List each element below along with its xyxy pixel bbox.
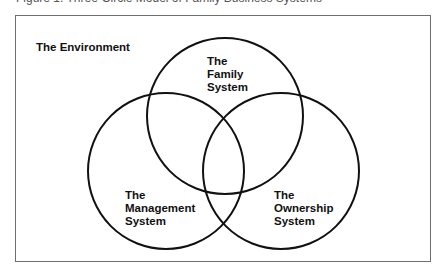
ownership-system-label: The Ownership System — [274, 189, 333, 228]
family-system-label: The Family System — [207, 55, 248, 94]
management-system-label: The Management System — [125, 189, 195, 228]
environment-label: The Environment — [36, 41, 130, 54]
